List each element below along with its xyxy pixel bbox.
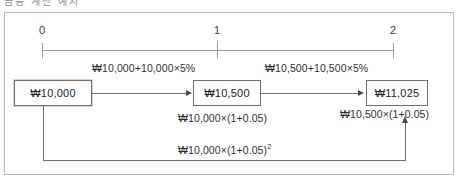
loop-arrow-bottom-segment	[43, 160, 406, 161]
arrow-line-period-1-to-2	[261, 93, 359, 94]
timeline-label-1: 1	[207, 24, 227, 36]
caption-mid-right: ₩10,500×(1+0.05)	[340, 108, 429, 120]
caption-mid-left: ₩10,000×(1+0.05)	[178, 112, 267, 124]
timeline-tick-1	[217, 41, 218, 59]
timeline-tick-2	[393, 43, 394, 58]
cut-off-header-label: 금융 계산 예시	[4, 0, 80, 8]
figure-canvas: 금융 계산 예시 0 1 2 ₩10,000 ₩10,500 ₩11,025 ₩…	[0, 0, 460, 181]
caption-top-right: ₩10,500+10,500×5%	[265, 62, 368, 74]
amount-box-period-2: ₩11,025	[366, 80, 428, 106]
caption-bottom-base: ₩10,000×(1+0.05)	[178, 144, 267, 156]
loop-arrow-left-segment	[43, 106, 44, 161]
caption-top-left: ₩10,000+10,000×5%	[92, 62, 195, 74]
cut-off-header-text: 금융 계산 예시	[0, 0, 460, 8]
timeline-label-0: 0	[32, 24, 52, 36]
caption-bottom: ₩10,000×(1+0.05)2	[178, 142, 271, 156]
timeline-label-2: 2	[383, 24, 403, 36]
loop-arrow-right-segment	[405, 122, 406, 161]
arrow-head-period-1-to-2-icon	[358, 90, 364, 96]
arrow-head-period-0-to-1-icon	[186, 90, 192, 96]
arrow-line-period-0-to-1	[92, 93, 187, 94]
caption-bottom-exponent: 2	[267, 142, 271, 151]
timeline-tick-0	[42, 43, 43, 58]
amount-box-period-1: ₩10,500	[193, 80, 261, 106]
amount-box-period-0: ₩10,000	[14, 80, 92, 106]
